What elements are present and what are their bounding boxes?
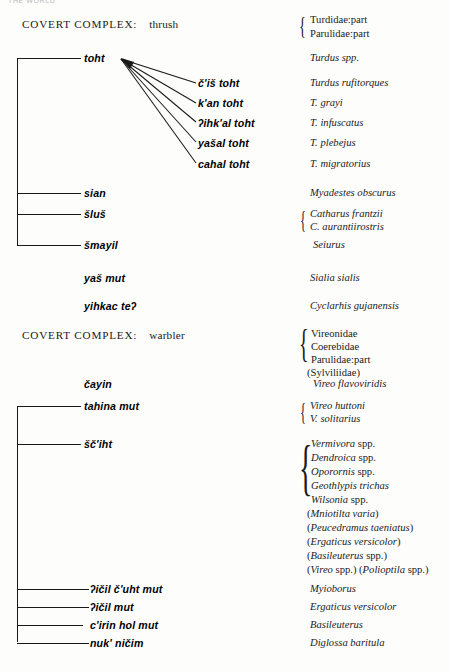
family-turdidae-part: Turdidae:part	[310, 14, 367, 25]
sci-dendroica: Dendroica spp.	[311, 452, 376, 463]
brace-warbler-families: {	[299, 324, 309, 364]
sci-t-plebejus: T. plebejus	[310, 137, 356, 148]
family-sylviliidae: (Sylviliidae)	[307, 367, 360, 378]
sci-oporornis: Oporornis spp.	[311, 466, 375, 477]
sci-vireo-huttoni: Vireo huttoni	[310, 400, 365, 411]
sci-italic: Wilsonia	[311, 494, 348, 505]
family-vireonidae: Vireonidae	[311, 328, 357, 339]
family-parulidae-part-2: Parulidae:part	[311, 354, 370, 365]
sci-italic: Myadestes obscurus	[310, 187, 396, 198]
sci-vermivora: Vermivora spp.	[311, 438, 375, 449]
covert-complex-label-2: COVERT COMPLEX:	[22, 329, 137, 341]
sci-sialia-sialis: Sialia sialis	[310, 272, 360, 283]
taxon-yihkac-te: yihkac teʔ	[84, 300, 136, 312]
taxon-kan-toht: k'an toht	[198, 97, 243, 109]
sci-italic: Peucedramus taeniatus	[311, 522, 410, 533]
paren-close: )	[375, 508, 379, 519]
sci-catharus-frantzii: Catharus frantzii	[310, 208, 383, 219]
sci-peucedramus-taeniatus: (Peucedramus taeniatus)	[307, 522, 413, 533]
sci-myioborus: Myioborus	[310, 583, 356, 594]
sci-italic: Cyclarhis gujanensis	[310, 300, 399, 311]
sci-italic: Dendroica	[311, 452, 356, 463]
branch-line-nuk-nicim	[17, 643, 89, 644]
brace-vireo-pair: {	[300, 399, 306, 424]
tree-trunk-thrush	[17, 58, 18, 245]
taxon-cahal-toht: cahal toht	[198, 158, 250, 170]
branch-line-icil-mut	[17, 607, 89, 608]
sci-c-aurantiirostris: C. aurantiirostris	[310, 221, 384, 232]
sci-italic: Mniotilta varia	[311, 508, 375, 519]
sci-qualifier: spp.	[355, 466, 375, 477]
sci-qualifier: spp.	[355, 438, 375, 449]
sci-italic: Oporornis	[311, 466, 355, 477]
covert-complex-name-2: warbler	[149, 329, 185, 341]
taxon-cis-toht: č'iš toht	[198, 77, 240, 89]
sci-italic: Vireo flavoviridis	[313, 378, 386, 389]
taxon-slus: šluš	[84, 208, 106, 220]
taxon-icil-cuht-mut: ʔičil č'uht mut	[90, 583, 162, 595]
sci-italic: Vireo huttoni	[310, 400, 365, 411]
sci-t-migratorius: T. migratorius	[310, 158, 370, 169]
taxon-yasal-toht: yašal toht	[198, 137, 249, 149]
sci-italic: Ergaticus versicolor	[311, 536, 397, 547]
sci-italic: Basileuterus	[311, 550, 364, 561]
sci-italic: T. grayi	[310, 97, 343, 108]
taxon-yas-mut: yaš mut	[84, 272, 125, 284]
sci-italic: Vireo	[311, 564, 333, 575]
taxon-smayil: šmayil	[84, 239, 118, 251]
sci-turdus-spp: Turdus spp.	[310, 52, 359, 63]
family-parulidae-part: Parulidae:part	[310, 28, 369, 39]
sci-cyclarhis-gujanensis: Cyclarhis gujanensis	[310, 300, 399, 311]
sci-italic-2: Polioptila	[363, 564, 405, 575]
sci-italic: Sialia sialis	[310, 272, 360, 283]
taxon-cirin-hol-mut: c'irin hol mut	[90, 619, 158, 631]
sci-t-infuscatus: T. infuscatus	[310, 117, 363, 128]
sci-italic: Seiurus	[313, 239, 345, 250]
paren-close: )	[397, 536, 401, 547]
branch-line-sian	[17, 193, 81, 194]
sci-italic: Myioborus	[310, 583, 356, 594]
taxon-sian: sian	[84, 187, 106, 199]
sci-italic: Catharus frantzii	[310, 208, 383, 219]
sci-diglossa-baritula: Diglossa baritula	[310, 637, 384, 648]
branch-line-smayil	[17, 245, 81, 246]
paren-close: )	[410, 522, 414, 533]
covert-complex-header-warbler: COVERT COMPLEX:warbler	[22, 329, 185, 341]
brace-thrush-families: {	[299, 13, 306, 39]
sci-italic: T. plebejus	[310, 137, 356, 148]
branch-line-tahina-mut	[17, 406, 81, 407]
paren-close: spp.)	[405, 564, 429, 575]
paren-mid: spp.)	[364, 550, 388, 561]
covert-complex-header-thrush: COVERT COMPLEX:thrush	[22, 18, 178, 30]
sci-italic: T. migratorius	[310, 158, 370, 169]
sci-t-grayi: T. grayi	[310, 97, 343, 108]
taxon-sciht: šč'iht	[84, 438, 112, 450]
sci-myadestes-obscurus: Myadestes obscurus	[310, 187, 396, 198]
sci-italic: Ergaticus versicolor	[310, 601, 396, 612]
sci-qualifier: spp.	[348, 494, 368, 505]
sci-basileuterus-paren: (Basileuterus spp.)	[307, 550, 387, 561]
branch-line-sciht	[17, 444, 81, 445]
branch-line-icil-cuht-mut	[17, 589, 89, 590]
sci-italic: Diglossa baritula	[310, 637, 384, 648]
taxon-icil-mut: ʔičil mut	[90, 601, 134, 613]
family-coerebidae: Coerebidae	[311, 341, 359, 352]
taxon-nuk-nicim: nuk' ničim	[90, 637, 143, 649]
taxon-ihkal-toht: ʔihk'al toht	[198, 117, 255, 129]
sci-italic: T. infuscatus	[310, 117, 363, 128]
page-root: THE WORLD COVERT COMPLEX:thrush { Turdid…	[0, 0, 450, 671]
branch-line-cirin-hol-mut	[17, 625, 83, 626]
sci-italic: Geothlypis trichas	[311, 480, 389, 491]
paren-mid: spp.) (	[333, 564, 363, 575]
sci-vireo-polioptila-paren: (Vireo spp.) (Polioptila spp.)	[307, 564, 429, 575]
sci-italic: Basileuterus	[310, 619, 363, 630]
sci-italic: Vermivora	[311, 438, 355, 449]
sci-qualifier: spp.	[356, 452, 376, 463]
branch-line-toht	[17, 58, 81, 59]
sci-italic: C. aurantiirostris	[310, 221, 384, 232]
taxon-toht: toht	[84, 52, 105, 64]
sci-seiurus: Seiurus	[313, 239, 345, 250]
sci-v-solitarius: V. solitarius	[310, 413, 360, 424]
sci-italic: Turdus rufitorques	[310, 77, 388, 88]
sci-mniotilta-varia: (Mniotilta varia)	[307, 508, 379, 519]
